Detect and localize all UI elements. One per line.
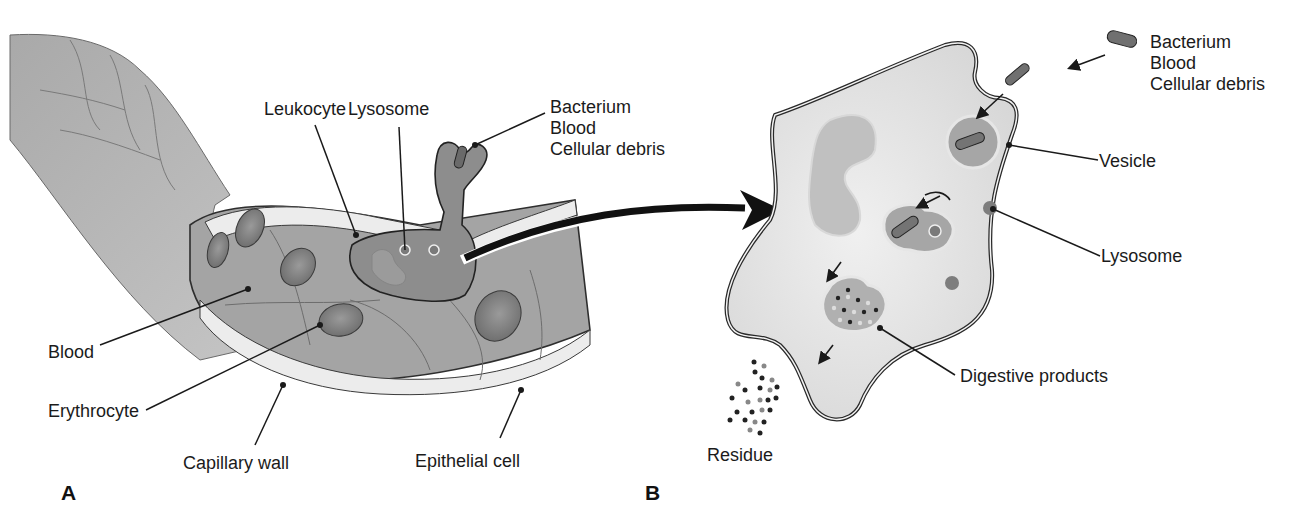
label-bacterium-b: Bacterium [1150,32,1265,53]
residue-particles [728,360,780,436]
label-particles-a: Bacterium Blood Cellular debris [550,97,665,160]
label-epithelial-cell: Epithelial cell [415,451,520,472]
label-digestive-products: Digestive products [960,366,1108,387]
lysosome-fusing [929,225,941,237]
label-residue: Residue [707,445,773,466]
lysosome-granule [429,245,439,255]
label-erythrocyte: Erythrocyte [48,401,139,422]
label-blood: Blood [48,342,94,363]
label-blood-particle-b: Blood [1150,53,1265,74]
label-blood-particle-a: Blood [550,118,665,139]
panel-letter-b: B [645,481,660,505]
label-lysosome-a: Lysosome [348,99,429,120]
bacterium-free [1106,29,1138,48]
label-bacterium-a: Bacterium [550,97,665,118]
label-particles-b: Bacterium Blood Cellular debris [1150,32,1265,95]
label-cellular-debris-a: Cellular debris [550,139,665,160]
label-vesicle: Vesicle [1099,151,1156,172]
bacterium-entering [1004,62,1031,87]
label-leukocyte: Leukocyte [264,99,346,120]
panel-a-illustration [10,34,590,394]
label-cellular-debris-b: Cellular debris [1150,74,1265,95]
label-lysosome-b: Lysosome [1101,246,1182,267]
lysosome-free [945,276,959,290]
label-capillary-wall: Capillary wall [183,453,289,474]
panel-letter-a: A [61,481,76,505]
leukocyte-enlarged-cell [726,43,1016,419]
